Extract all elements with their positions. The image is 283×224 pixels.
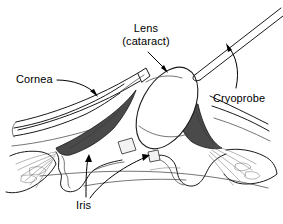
ciliary-ring-line	[84, 179, 186, 186]
label-cryoprobe: Cryoprobe	[213, 92, 265, 105]
label-lens-line1: Lens	[134, 22, 158, 34]
left-ciliary-process-detail-2	[21, 175, 37, 183]
cryoprobe-shaft-lower-edge	[200, 16, 283, 80]
right-sclera-texture	[150, 168, 180, 170]
left-ciliary-outline	[6, 151, 56, 193]
right-ciliary-process-detail-2	[245, 172, 260, 179]
cornea-leader-line	[57, 80, 96, 94]
label-lens: Lens(cataract)	[104, 22, 188, 47]
left-ciliary-process-detail	[30, 167, 46, 175]
cornea-limbus-left	[12, 122, 16, 137]
right-iris-group	[148, 150, 226, 186]
left-zonule-fiber-1	[16, 152, 56, 164]
sclera-right-lower-contour	[214, 118, 270, 141]
cryoprobe-group	[193, 8, 283, 81]
cornea-flap-fold	[120, 75, 144, 92]
label-cornea: Cornea	[16, 73, 53, 86]
left-iris-inner-line	[62, 156, 70, 188]
right-pupil-margin-tab	[148, 150, 160, 162]
cryoprobe-shaft-upper-edge	[196, 8, 281, 74]
iris-left-leader-arrowhead	[85, 154, 92, 162]
cataract-extraction-figure: Cornea Lens(cataract) Cryoprobe Iris	[0, 0, 283, 224]
right-iris-contour	[150, 154, 226, 186]
left-ciliary-zonule-group	[6, 151, 56, 193]
right-zonule-fiber-5	[209, 155, 233, 185]
right-zonule-fiber-1	[216, 146, 256, 164]
left-zonule-fiber-4	[25, 158, 54, 181]
label-iris: Iris	[76, 199, 91, 212]
label-lens-line2: (cataract)	[122, 35, 169, 47]
left-pupil-tab	[118, 138, 136, 154]
